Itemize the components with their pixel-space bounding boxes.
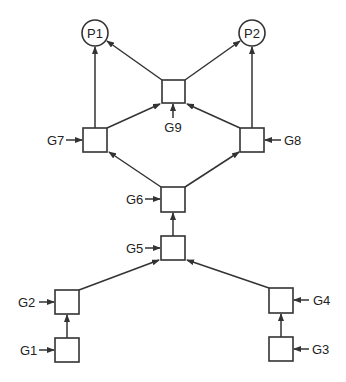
gate-box-g8 bbox=[240, 128, 264, 152]
gate-box-g9 bbox=[162, 80, 185, 103]
gate-box-g5 bbox=[161, 236, 185, 260]
output-label-p1: P1 bbox=[87, 26, 103, 41]
edge-g9-p1 bbox=[107, 41, 162, 80]
output-node-p2: P2 bbox=[239, 20, 265, 46]
gate-label-g4: G4 bbox=[313, 293, 330, 308]
gate-label-g1: G1 bbox=[20, 343, 37, 358]
output-node-p1: P1 bbox=[82, 20, 108, 46]
edge-g2-g5 bbox=[79, 260, 159, 290]
gate-label-g2: G2 bbox=[18, 295, 35, 310]
edge-g7-g9 bbox=[107, 104, 160, 128]
gate-box-g6 bbox=[161, 187, 185, 212]
output-label-p2: P2 bbox=[244, 26, 260, 41]
edge-g8-g9 bbox=[187, 104, 240, 128]
gate-label-g6: G6 bbox=[126, 192, 143, 207]
edge-g4-g5 bbox=[187, 260, 269, 288]
edge-g9-p2 bbox=[185, 41, 240, 80]
diagram-canvas: P1 P2 G1 G2 G3 G4 G5 G6 G7 G8 G9 bbox=[0, 0, 346, 382]
gate-box-g3 bbox=[269, 337, 293, 361]
gate-label-g3: G3 bbox=[312, 342, 329, 357]
gate-label-g7: G7 bbox=[47, 133, 64, 148]
gate-box-g4 bbox=[269, 288, 293, 313]
gate-box-g7 bbox=[83, 128, 107, 152]
gate-label-g5: G5 bbox=[126, 241, 143, 256]
gate-label-g9: G9 bbox=[164, 120, 181, 135]
edge-g6-g7 bbox=[109, 152, 161, 187]
gate-box-g2 bbox=[55, 290, 79, 314]
gate-box-g1 bbox=[55, 338, 79, 362]
gate-label-g8: G8 bbox=[284, 133, 301, 148]
edge-g6-g8 bbox=[185, 152, 239, 187]
